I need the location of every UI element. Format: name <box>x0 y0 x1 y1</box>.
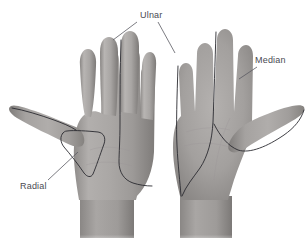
leader-line-ulnar-right <box>158 22 175 53</box>
left-thumb <box>9 105 84 146</box>
wrist-fade-right <box>178 215 234 239</box>
left-index-finger <box>80 49 96 117</box>
left-hand-dorsal <box>9 31 156 238</box>
left-middle-finger <box>100 37 118 116</box>
label-median: Median <box>255 55 286 65</box>
diagram-canvas: Ulnar Median Radial <box>0 0 307 249</box>
wrist-fade-left <box>78 215 136 239</box>
left-little-finger <box>140 52 156 120</box>
hand-nerve-diagram: Ulnar Median Radial <box>0 0 307 249</box>
label-ulnar: Ulnar <box>140 10 163 20</box>
left-ring-finger <box>120 31 139 114</box>
label-radial: Radial <box>20 181 47 191</box>
leader-line-radial <box>48 152 78 180</box>
